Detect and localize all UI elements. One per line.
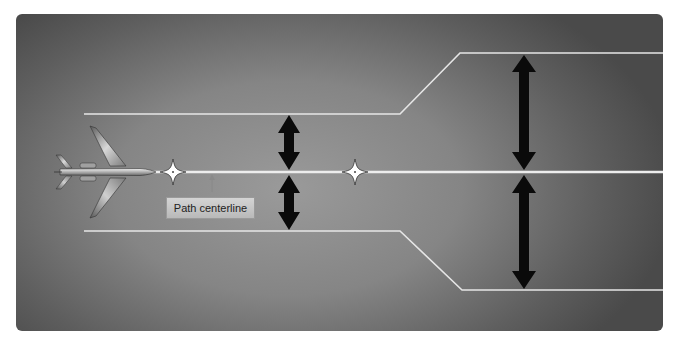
waypoint-star-icon — [342, 159, 368, 185]
double-arrow-icon — [512, 175, 536, 289]
double-arrow-icon — [278, 115, 300, 170]
double-arrow-icon — [278, 175, 300, 230]
lower-boundary-line — [84, 231, 663, 290]
double-arrow-icon — [512, 55, 536, 170]
airplane-icon — [54, 126, 156, 218]
upper-boundary-line — [84, 53, 663, 114]
pointer-arrow-icon — [209, 174, 215, 192]
waypoint-star-icon — [160, 159, 186, 185]
airspace-diagram — [0, 0, 679, 347]
path-centerline-label: Path centerline — [166, 197, 255, 219]
